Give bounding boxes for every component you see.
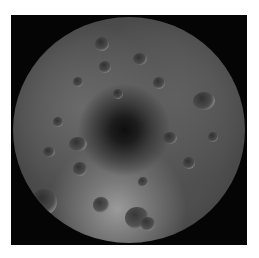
crater: [138, 177, 148, 187]
crater: [95, 37, 109, 51]
crater: [208, 132, 218, 142]
crater: [163, 132, 177, 144]
moon-surface: [13, 17, 245, 243]
crater: [133, 53, 147, 65]
crater: [73, 162, 87, 176]
crater: [153, 77, 165, 89]
crater: [69, 137, 87, 151]
crater: [73, 77, 83, 87]
crater: [93, 197, 109, 213]
crater: [193, 92, 215, 110]
crater: [43, 147, 55, 157]
image-frame: [11, 15, 247, 245]
crater: [31, 189, 57, 215]
crater: [53, 117, 63, 127]
crater: [141, 217, 155, 231]
crater: [113, 89, 123, 99]
crater: [183, 157, 195, 169]
crater: [99, 61, 111, 73]
